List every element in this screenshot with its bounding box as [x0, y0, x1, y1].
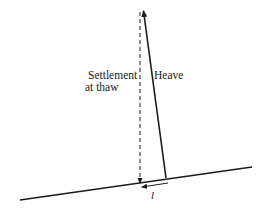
displacement-label: l: [151, 189, 154, 201]
heave-label: Heave: [154, 69, 183, 81]
slope-surface-line: [20, 167, 252, 200]
settlement-label-line2: at thaw: [85, 81, 119, 93]
settlement-label-line1: Settlement: [88, 69, 138, 81]
heave-arrow: [144, 11, 167, 178]
frost-creep-diagram: Settlement at thaw Heave l: [0, 0, 266, 212]
net-displacement-arrow: [142, 183, 168, 187]
